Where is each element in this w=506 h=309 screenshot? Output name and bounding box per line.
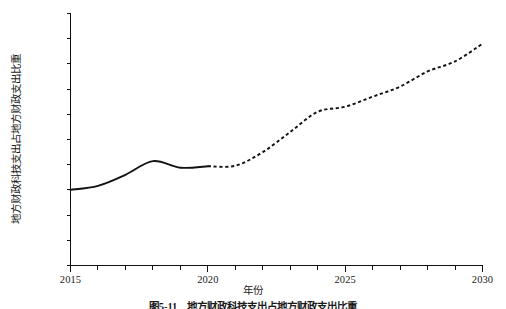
x-tick-label: 2025 <box>320 274 370 285</box>
figure-caption: 图5-11 地方财政科技支出占地方财政支出比重 <box>0 301 506 309</box>
x-tick-label: 2020 <box>183 274 233 285</box>
x-tick-label: 2030 <box>458 274 506 285</box>
x-axis-tick-labels: 2015202020252030 <box>0 0 506 309</box>
chart-figure: 00.5%1.0%1.5%2.0%2.5%3.0%3.5%4.0%4.5%5.0… <box>0 0 506 309</box>
y-axis-title: 地方财政科技支出占地方财政支出比重 <box>11 26 23 252</box>
x-axis-title: 年份 <box>0 285 506 297</box>
x-tick-label: 2015 <box>46 274 96 285</box>
